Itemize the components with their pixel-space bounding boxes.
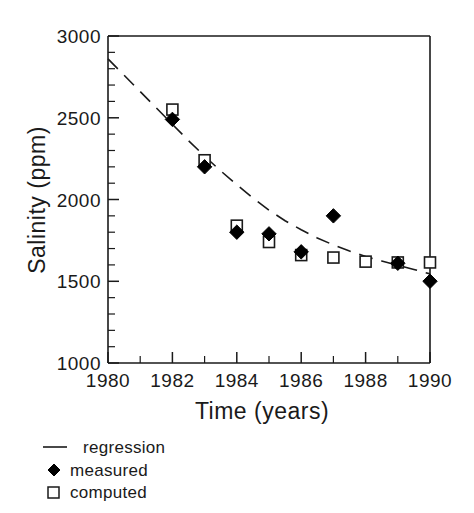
x-tick-label-1980: 1980 <box>86 370 130 391</box>
x-axis-title: Time (years) <box>195 398 329 424</box>
x-axis-minor-ticks <box>140 356 398 363</box>
measured-point-1990 <box>423 274 437 288</box>
x-tick-label-1984: 1984 <box>215 370 259 391</box>
computed-point-1990 <box>425 257 436 268</box>
legend-open-square-icon <box>48 487 59 498</box>
measured-series-markers <box>165 112 437 288</box>
x-tick-label-1990: 1990 <box>408 370 452 391</box>
computed-series-markers <box>167 104 436 268</box>
legend-entry-measured: measured <box>48 461 148 480</box>
y-tick-label-1500: 1500 <box>57 271 101 292</box>
chart-figure: 3000 2500 2000 1500 1000 1980 1982 1984 … <box>0 0 474 513</box>
legend-label-computed: computed <box>70 483 147 502</box>
x-axis-tick-labels: 1980 1982 1984 1986 1988 1990 <box>86 370 452 391</box>
y-axis-title: Salinity (ppm) <box>24 126 50 274</box>
y-axis-tick-labels: 3000 2500 2000 1500 1000 <box>57 26 101 374</box>
computed-point-1987 <box>328 252 339 263</box>
y-tick-label-3000: 3000 <box>57 26 101 47</box>
y-tick-label-2000: 2000 <box>57 190 101 211</box>
computed-point-1988 <box>360 256 371 267</box>
y-tick-label-2500: 2500 <box>57 108 101 129</box>
salinity-vs-time-scatter-plot: 3000 2500 2000 1500 1000 1980 1982 1984 … <box>0 0 474 513</box>
legend-entry-computed: computed <box>48 483 147 502</box>
x-tick-label-1982: 1982 <box>150 370 194 391</box>
x-tick-label-1988: 1988 <box>343 370 387 391</box>
legend-entry-regression: regression <box>43 438 165 457</box>
legend-label-measured: measured <box>70 461 148 480</box>
plot-axes-frame <box>108 36 430 363</box>
legend-label-regression: regression <box>83 438 165 457</box>
chart-legend: regression measured computed <box>43 438 165 502</box>
legend-filled-diamond-icon <box>48 464 60 476</box>
measured-point-1987 <box>326 209 340 223</box>
x-tick-label-1986: 1986 <box>279 370 323 391</box>
